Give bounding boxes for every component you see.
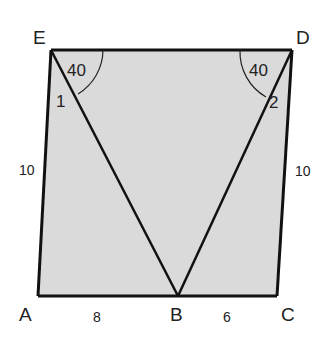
vertex-label-B: B (170, 304, 183, 325)
side-label-BC: 6 (223, 309, 231, 325)
side-label-AB: 8 (93, 309, 101, 325)
side-label-EA: 10 (19, 162, 35, 178)
side-label-DC: 10 (295, 163, 311, 179)
angle-label-D-40: 40 (249, 61, 268, 80)
angle-label-1: 1 (56, 92, 65, 111)
angle-label-E-40: 40 (67, 61, 86, 80)
vertex-label-A: A (19, 304, 32, 325)
geometry-diagram: E D A B C 10 10 8 6 40 40 1 2 (0, 0, 327, 340)
vertex-label-D: D (296, 27, 310, 48)
angle-label-2: 2 (269, 93, 278, 112)
vertex-label-E: E (33, 27, 46, 48)
vertex-label-C: C (281, 304, 295, 325)
